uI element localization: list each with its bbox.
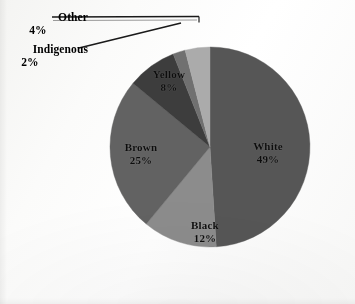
leader-line-indigenous <box>79 23 181 48</box>
pie-label-yellow: Yellow 8% <box>153 68 185 93</box>
pie-label-black: Black 12% <box>191 219 219 244</box>
pie-label-brown: Brown 25% <box>125 141 158 166</box>
pie-callout-other: Other 4% <box>14 11 88 37</box>
chart-page: White 49% Black 12% Brown 25% Yellow 8% … <box>0 0 355 304</box>
pie-label-black-name: Black <box>191 219 219 231</box>
pie-callout-indigenous: Indigenous 2% <box>2 43 88 69</box>
pie-label-white-value: 49% <box>253 152 283 165</box>
pie-callout-indigenous-value: 2% <box>2 56 88 69</box>
pie-label-white: White 49% <box>253 140 283 165</box>
pie-label-black-value: 12% <box>191 231 219 244</box>
pie-label-brown-value: 25% <box>125 153 158 166</box>
pie-label-yellow-name: Yellow <box>153 68 185 80</box>
pie-callout-indigenous-name: Indigenous <box>33 43 88 55</box>
pie-label-brown-name: Brown <box>125 141 158 153</box>
pie-callout-other-value: 4% <box>14 24 88 37</box>
pie-label-yellow-value: 8% <box>153 80 185 93</box>
pie-callout-other-name: Other <box>58 11 88 23</box>
pie-label-white-name: White <box>253 140 283 152</box>
